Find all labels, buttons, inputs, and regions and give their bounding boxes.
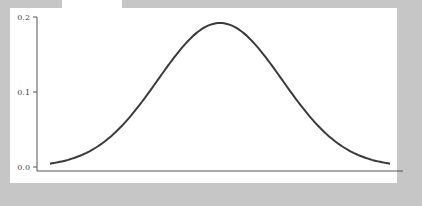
y-label-0.1: 0.1 xyxy=(17,88,30,97)
chart-svg: 0.2 0.1 0.0 xyxy=(0,0,422,206)
y-label-0.0: 0.0 xyxy=(17,163,30,172)
y-label-0.2: 0.2 xyxy=(17,13,30,22)
density-curve xyxy=(50,23,390,164)
